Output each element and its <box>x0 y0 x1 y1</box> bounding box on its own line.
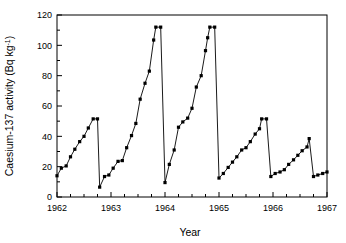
cesium-137-line-chart: 020406080100120 196219631964196519661967… <box>0 0 346 243</box>
data-point-marker <box>296 154 299 157</box>
data-point-marker <box>159 26 162 29</box>
data-point-marker <box>107 173 110 176</box>
data-point-marker <box>168 163 171 166</box>
data-point-marker <box>301 149 304 152</box>
x-tick-label: 1966 <box>263 203 283 213</box>
data-point-marker <box>325 170 328 173</box>
data-point-marker <box>186 117 189 120</box>
data-point-marker <box>65 164 68 167</box>
data-point-marker <box>235 155 238 158</box>
data-point-marker <box>308 137 311 140</box>
data-point-marker <box>240 148 243 151</box>
data-point-marker <box>321 172 324 175</box>
data-point-marker <box>204 49 207 52</box>
x-axis-title: Year <box>179 226 201 238</box>
y-axis-title: Caesium-137 activity (Bq kg-1) <box>3 36 15 176</box>
data-point-marker <box>73 148 76 151</box>
data-point-marker <box>173 148 176 151</box>
data-point-marker <box>213 26 216 29</box>
data-point-marker <box>249 140 252 143</box>
data-point-marker <box>82 135 85 138</box>
data-point-marker <box>190 107 193 110</box>
data-point-marker <box>287 163 290 166</box>
y-tick-label: 40 <box>42 132 52 142</box>
data-point-marker <box>148 70 151 73</box>
y-tick-label: 60 <box>42 101 52 111</box>
y-axis-title-tail: ) <box>3 36 15 40</box>
data-point-marker <box>152 38 155 41</box>
data-point-marker <box>254 132 257 135</box>
data-point-marker <box>143 82 146 85</box>
y-tick-label: 20 <box>42 162 52 172</box>
data-point-marker <box>305 145 308 148</box>
x-tick-label: 1964 <box>155 203 175 213</box>
data-point-marker <box>116 160 119 163</box>
data-point-marker <box>181 120 184 123</box>
data-point-marker <box>222 172 225 175</box>
data-point-marker <box>103 175 106 178</box>
data-point-marker <box>269 175 272 178</box>
data-point-marker <box>78 140 81 143</box>
data-point-marker <box>292 158 295 161</box>
data-point-marker <box>208 26 211 29</box>
data-point-marker <box>195 85 198 88</box>
y-tick-label: 80 <box>42 71 52 81</box>
data-point-marker <box>258 127 261 130</box>
data-point-marker <box>312 175 315 178</box>
data-point-marker <box>130 134 133 137</box>
data-point-marker <box>227 166 230 169</box>
data-point-marker <box>260 117 263 120</box>
data-point-marker <box>231 161 234 164</box>
data-point-marker <box>125 146 128 149</box>
data-point-marker <box>121 159 124 162</box>
data-point-marker <box>96 117 99 120</box>
data-point-marker <box>316 173 319 176</box>
data-point-marker <box>283 168 286 171</box>
svg-text:Caesium-137 activity (Bq kg-1): Caesium-137 activity (Bq kg-1) <box>3 36 15 176</box>
y-tick-label: 100 <box>37 41 52 51</box>
data-point-marker <box>206 36 209 39</box>
data-point-marker <box>177 126 180 129</box>
data-point-marker <box>60 167 63 170</box>
data-point-marker <box>200 74 203 77</box>
data-point-marker <box>139 98 142 101</box>
x-tick-label: 1963 <box>101 203 121 213</box>
data-point-marker <box>217 176 220 179</box>
data-point-marker <box>163 181 166 184</box>
y-tick-label: 120 <box>37 10 52 20</box>
data-point-marker <box>154 26 157 29</box>
data-point-marker <box>112 167 115 170</box>
data-point-marker <box>278 170 281 173</box>
y-axis-title-main: Caesium-137 activity (Bq kg <box>3 45 15 176</box>
data-point-marker <box>87 126 90 129</box>
data-point-marker <box>244 146 247 149</box>
x-tick-label: 1962 <box>47 203 67 213</box>
data-point-marker <box>69 155 72 158</box>
x-tick-label: 1967 <box>317 203 337 213</box>
y-tick-label: 0 <box>47 192 52 202</box>
data-point-marker <box>55 174 58 177</box>
x-tick-label: 1965 <box>209 203 229 213</box>
data-point-marker <box>134 122 137 125</box>
data-point-marker <box>92 117 95 120</box>
data-point-marker <box>98 186 101 189</box>
data-point-marker <box>265 117 268 120</box>
data-point-marker <box>274 172 277 175</box>
chart-figure: 020406080100120 196219631964196519661967… <box>0 0 346 243</box>
